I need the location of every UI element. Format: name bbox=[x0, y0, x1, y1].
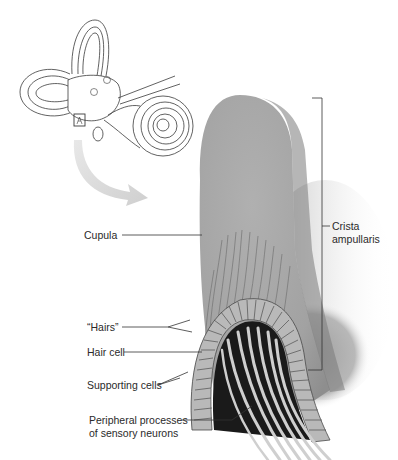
cupula-label: Cupula bbox=[84, 229, 117, 241]
crista-ampullaris-diagram: Cupula “Hairs” Hair cell Supporting cell… bbox=[0, 0, 398, 460]
hairs-label: “Hairs” bbox=[87, 321, 119, 333]
supporting-cells-label: Supporting cells bbox=[87, 379, 162, 391]
crista-ampullaris-label: Crista bbox=[332, 220, 359, 232]
crista-ampullaris-label-line2: ampullaris bbox=[332, 233, 380, 245]
pointer-arrow bbox=[74, 140, 148, 206]
peripheral-processes-label: Peripheral processes bbox=[89, 414, 188, 426]
inner-ear-inset bbox=[20, 20, 193, 156]
hair-cell-label: Hair cell bbox=[87, 346, 125, 358]
peripheral-processes-label-line2: of sensory neurons bbox=[89, 427, 178, 439]
supporting-cells-leader bbox=[158, 372, 188, 385]
hairs-leader bbox=[168, 327, 192, 332]
